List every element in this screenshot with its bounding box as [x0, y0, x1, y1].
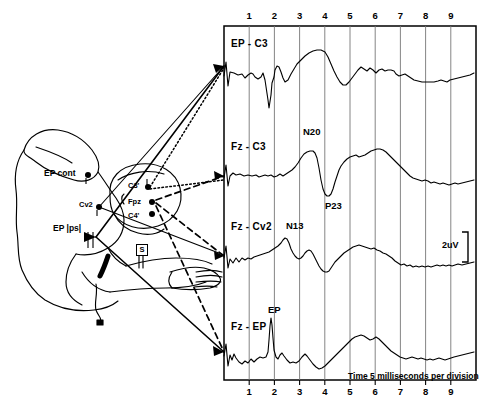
finger-2 — [196, 276, 222, 278]
thumb-line — [169, 272, 172, 288]
connector-lines — [96, 66, 224, 352]
axis-bottom-label-8: 8 — [420, 386, 432, 397]
electrode-dot-fpz — [149, 199, 155, 205]
axis-top-label-9: 9 — [445, 10, 457, 21]
axis-bottom-label-2: 2 — [268, 386, 280, 397]
arrowhead-fz-c3 — [214, 171, 224, 180]
connector-solid-cv2-top — [99, 66, 224, 207]
stimulator-box: S — [136, 244, 148, 256]
axis-bottom-label-1: 1 — [243, 386, 255, 397]
calibration-marker — [462, 232, 468, 262]
connector-dashed-fpz-fzc3 — [156, 176, 224, 200]
connector-solid-ep-c3 — [96, 66, 224, 237]
label-fpz: Fpz — [128, 197, 141, 206]
finger-4 — [194, 286, 217, 287]
axis-top-label-1: 1 — [243, 10, 255, 21]
trace-fz-cv2 — [224, 238, 474, 272]
calibration-bracket — [462, 232, 468, 262]
ep-ips-arrow — [84, 232, 96, 242]
peak-label-ep: EP — [268, 304, 281, 315]
axis-top-label-8: 8 — [420, 10, 432, 21]
cable-plug — [97, 320, 103, 325]
connector-solid-fz-ep — [96, 237, 224, 352]
label-cv2: Cv2 — [79, 200, 93, 209]
arm-wrist-band — [100, 256, 108, 276]
axis-top-label-5: 5 — [344, 10, 356, 21]
axis-bottom-label-5: 5 — [344, 386, 356, 397]
ssep-figure: EP cont EP |ps| Cv2 C3' Fpz C4' S EP - C… — [0, 0, 484, 409]
axis-bottom-label-7: 7 — [394, 386, 406, 397]
connector-dotted-c3p-fz — [150, 180, 224, 189]
connector-dashed-fpz-fzep — [156, 206, 224, 352]
anatomy-drawing — [15, 130, 222, 325]
peak-label-p23: P23 — [325, 200, 342, 211]
axis-caption: Time 5 milliseconds per division — [348, 371, 479, 381]
axis-bottom-label-9: 9 — [445, 386, 457, 397]
electrode-dot-c4p — [149, 211, 155, 217]
figure-canvas — [0, 0, 484, 409]
label-ep-cont: EP cont — [44, 168, 76, 178]
axis-top-label-2: 2 — [268, 10, 280, 21]
axis-top-label-6: 6 — [369, 10, 381, 21]
axis-top-label-7: 7 — [394, 10, 406, 21]
trace-ep-c3 — [224, 50, 474, 108]
label-c3-prime: C3' — [128, 181, 139, 190]
peak-label-n13: N13 — [286, 220, 303, 231]
axis-top-label-3: 3 — [294, 10, 306, 21]
shoulder-crease — [36, 147, 72, 163]
connector-solid-cv2-mid — [99, 207, 224, 255]
trace-fz-c3 — [224, 149, 474, 196]
peak-label-n20: N20 — [303, 126, 320, 137]
trace-label-fz-cv2: Fz - Cv2 — [231, 221, 272, 232]
trunk-lower — [66, 254, 82, 305]
trace-label-fz-c3: Fz - C3 — [231, 141, 266, 152]
finger-3 — [196, 281, 221, 282]
axis-bottom-label-3: 3 — [294, 386, 306, 397]
connector-dotted-c3p-top — [150, 68, 224, 187]
calibration-label-2uv: 2uV — [442, 240, 459, 250]
axis-bottom-label-6: 6 — [369, 386, 381, 397]
trace-label-ep-c3: EP - C3 — [231, 38, 268, 49]
finger-1 — [196, 271, 222, 273]
trace-label-fz-ep: Fz - EP — [231, 321, 266, 332]
connector-arrowheads — [213, 64, 224, 356]
head-outline — [110, 164, 181, 229]
axis-top-label-4: 4 — [319, 10, 331, 21]
axis-bottom-label-4: 4 — [319, 386, 331, 397]
label-ep-ips: EP |ps| — [53, 223, 81, 233]
plot-gridlines — [249, 26, 451, 380]
electrode-dot-ep-cont — [85, 172, 91, 178]
label-c4-prime: C4' — [128, 211, 139, 220]
